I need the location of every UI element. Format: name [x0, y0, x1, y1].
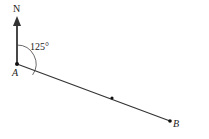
- midpoint: [110, 96, 113, 99]
- angle-label: 125°: [30, 41, 49, 52]
- point-a: [15, 62, 19, 66]
- point-b-label: B: [173, 118, 179, 129]
- point-a-label: A: [11, 67, 19, 78]
- north-label: N: [13, 3, 20, 14]
- north-arrow-icon: [13, 16, 21, 26]
- line-ab: [17, 64, 170, 121]
- point-b: [168, 119, 172, 123]
- bearing-diagram: N 125° A B: [0, 0, 209, 139]
